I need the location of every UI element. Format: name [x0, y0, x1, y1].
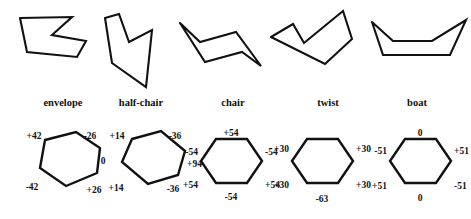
conformation-label-chair: chair	[221, 97, 245, 108]
conformation-labels-layer: envelopehalf-chairchairtwistboat	[43, 97, 427, 108]
torsion-chair-angle-upper-left: -54	[185, 147, 198, 157]
torsion-boat-angle-upper-left: -51	[374, 146, 387, 156]
ring-shape-half-chair	[105, 14, 152, 87]
torsion-chair-angle-top: +54	[224, 128, 239, 138]
torsion-twist-angle-lower-left: +30	[274, 180, 289, 190]
conformation-figure: envelopehalf-chairchairtwistboat +42-260…	[0, 0, 471, 219]
ring-shapes-layer	[20, 11, 466, 87]
conformation-label-boat: boat	[407, 97, 427, 108]
torsion-boat-angle-upper-right: +51	[454, 146, 469, 156]
torsion-half-chair-angle-bottom-left: +14	[109, 183, 124, 193]
conformation-label-half-chair: half-chair	[119, 97, 164, 108]
torsion-hexagon-boat	[390, 139, 451, 183]
ring-shape-twist	[271, 11, 352, 64]
torsion-half-chair-angle-right: +94	[187, 159, 202, 169]
conformation-label-twist: twist	[317, 97, 339, 108]
torsion-twist-angle-upper-right: +30	[356, 144, 371, 154]
torsion-half-chair-angle-top-right: -36	[169, 131, 182, 141]
torsion-boat-angle-lower-left: +51	[372, 181, 387, 191]
torsion-envelope-angle-right: 0	[101, 156, 106, 166]
ring-shape-boat	[372, 20, 466, 55]
torsion-chair-angle-lower-left: +54	[183, 180, 198, 190]
torsion-envelope-angle-bottom-right: +26	[87, 185, 102, 195]
ring-shape-envelope	[20, 17, 86, 57]
torsion-boat-angle-lower-right: -51	[454, 181, 467, 191]
torsion-boat-angle-bottom: 0	[418, 193, 423, 203]
torsion-half-chair-angle-top-left: +14	[110, 131, 125, 141]
torsion-twist-angle-upper-left: +30	[274, 144, 289, 154]
torsion-half-chair-angle-bottom-right: -36	[167, 184, 180, 194]
torsion-chair-angle-bottom: -54	[225, 192, 238, 202]
torsion-twist-angle-lower-right: +30	[356, 180, 371, 190]
torsion-twist-angle-bottom: -63	[316, 194, 329, 204]
torsion-hexagon-chair	[201, 139, 262, 183]
ring-shape-chair	[180, 23, 261, 66]
torsion-envelope-angle-bottom-left: -42	[26, 182, 39, 192]
conformation-diagram-svg: envelopehalf-chairchairtwistboat +42-260…	[0, 0, 471, 219]
torsion-boat-angle-top: 0	[418, 128, 423, 138]
torsion-envelope-angle-top-right: -26	[84, 131, 97, 141]
conformation-label-envelope: envelope	[43, 97, 82, 108]
torsion-envelope-angle-top-left: +42	[27, 131, 42, 141]
torsion-hexagon-twist	[292, 139, 353, 183]
